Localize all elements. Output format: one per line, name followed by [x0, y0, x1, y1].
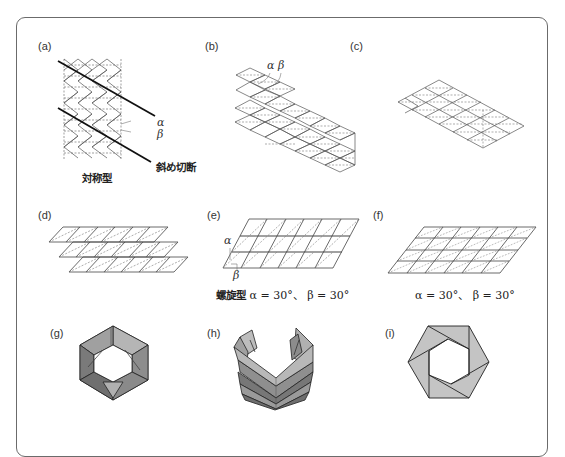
panel-i-folded-hexagon [0, 0, 565, 440]
